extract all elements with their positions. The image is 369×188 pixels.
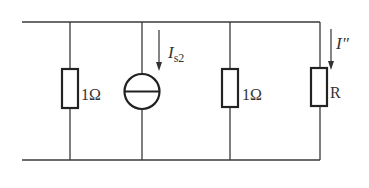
resistor-icon <box>62 69 78 108</box>
branch-resistor-1ohm-right: 1Ω <box>222 22 262 160</box>
resistor-label: R <box>330 84 341 101</box>
arrow-head-icon <box>156 62 162 71</box>
branch-resistor-R: R I″ <box>311 22 350 160</box>
branch-current-source: Is2 <box>125 22 185 160</box>
circuit-diagram: 1Ω Is2 1Ω R I″ <box>0 0 369 188</box>
branch-resistor-1ohm-left: 1Ω <box>62 22 101 160</box>
resistor-label: 1Ω <box>242 86 262 103</box>
resistor-label: 1Ω <box>81 86 101 103</box>
source-label: Is2 <box>167 43 184 65</box>
arrow-head-icon <box>328 61 334 70</box>
resistor-icon <box>222 69 238 107</box>
resistor-icon <box>311 68 327 106</box>
current-label: I″ <box>335 34 350 53</box>
